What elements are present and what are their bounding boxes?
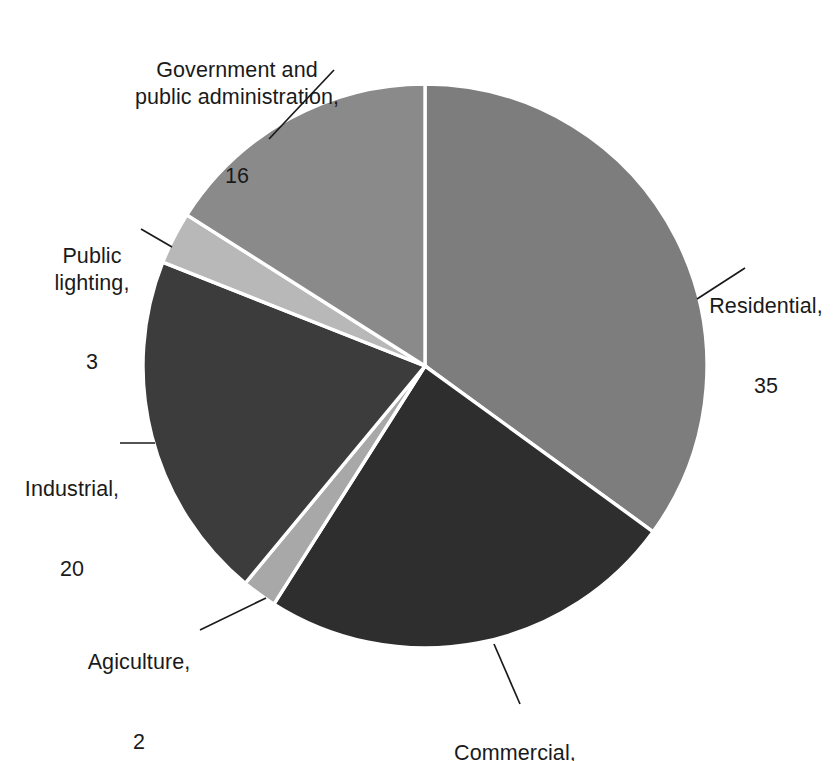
slice-label-public-lighting-value: 3 bbox=[24, 349, 160, 376]
slice-label-agiculture-name: Agiculture, bbox=[60, 649, 218, 676]
pie-chart-figure: Government and public administration, 16… bbox=[0, 0, 835, 761]
slice-label-industrial-name: Industrial, bbox=[6, 476, 138, 503]
slice-label-residential-value: 35 bbox=[700, 373, 832, 400]
slice-label-government-value: 16 bbox=[118, 163, 356, 190]
slice-label-government-name: Government and public administration, bbox=[118, 57, 356, 110]
slice-label-industrial-value: 20 bbox=[6, 556, 138, 583]
slice-label-public-lighting-name: Public lighting, bbox=[24, 243, 160, 296]
slice-label-commercial: Commercial, 24 bbox=[438, 687, 592, 761]
slice-label-residential-name: Residential, bbox=[700, 293, 832, 320]
slice-label-agiculture-value: 2 bbox=[60, 729, 218, 756]
slice-label-commercial-name: Commercial, bbox=[438, 740, 592, 761]
slice-label-agiculture: Agiculture, 2 bbox=[60, 596, 218, 761]
slice-label-public-lighting: Public lighting, 3 bbox=[24, 190, 160, 429]
slice-label-residential: Residential, 35 bbox=[700, 240, 832, 452]
